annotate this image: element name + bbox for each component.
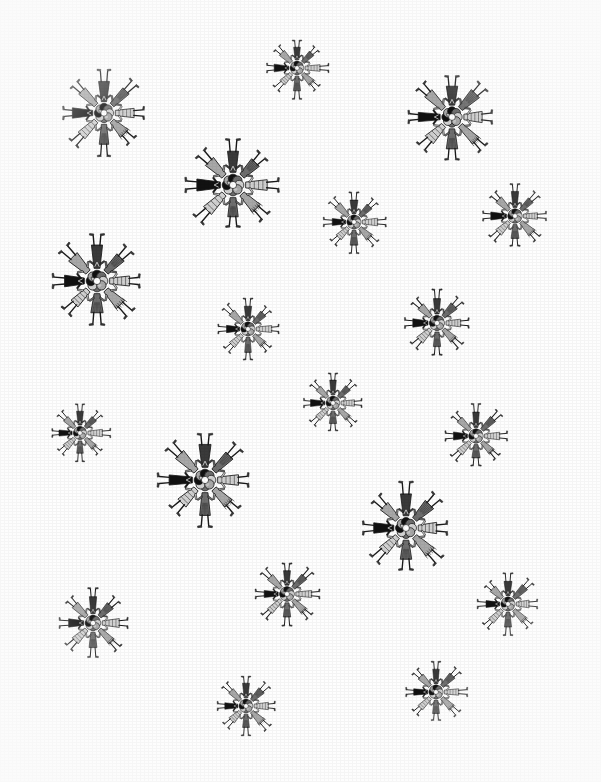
motif-instance	[15, 545, 171, 701]
motif-instance	[178, 638, 315, 775]
artwork-page	[0, 0, 601, 782]
motif-instance	[366, 622, 507, 763]
motif-svg	[0, 175, 203, 388]
motif-svg	[366, 622, 507, 763]
motif-svg	[178, 638, 315, 775]
motif-svg	[15, 545, 171, 701]
motif-instance	[0, 175, 203, 388]
